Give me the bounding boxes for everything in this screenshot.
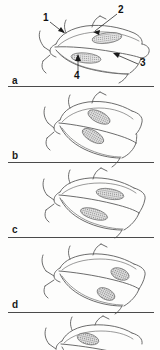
panel-d: d (0, 238, 160, 312)
panel-b-drawing (0, 88, 160, 163)
callout-label-2: 2 (118, 5, 124, 15)
shaded-patch-upper (86, 107, 112, 128)
shaded-patch-upper (109, 265, 131, 283)
panel-label-a: a (12, 76, 18, 86)
panel-divider-a (8, 86, 154, 87)
shaded-patch-upper (76, 331, 100, 347)
panel-a-drawing (0, 0, 160, 86)
panel-e (0, 313, 160, 350)
panel-label-b: b (12, 151, 18, 161)
figure-container: 1 2 3 4 a (0, 0, 160, 350)
panel-label-c: c (12, 225, 18, 235)
shaded-patch-lower (79, 205, 109, 223)
callout-leader-3 (113, 53, 138, 64)
panel-d-drawing (0, 238, 160, 312)
panel-b: b (0, 88, 160, 163)
callout-label-4: 4 (74, 71, 80, 81)
panel-c-drawing (0, 163, 160, 237)
shaded-patch-upper (95, 186, 124, 201)
shaded-patch-lower (95, 285, 117, 303)
panel-a: 1 2 3 4 a (0, 0, 160, 86)
shaded-patch-lower (71, 51, 102, 64)
panel-c: c (0, 163, 160, 237)
panel-e-drawing (0, 313, 160, 350)
panel-label-d: d (12, 300, 18, 310)
callout-leader-1 (50, 22, 65, 33)
callout-label-3: 3 (140, 58, 146, 68)
callout-label-1: 1 (43, 13, 49, 23)
